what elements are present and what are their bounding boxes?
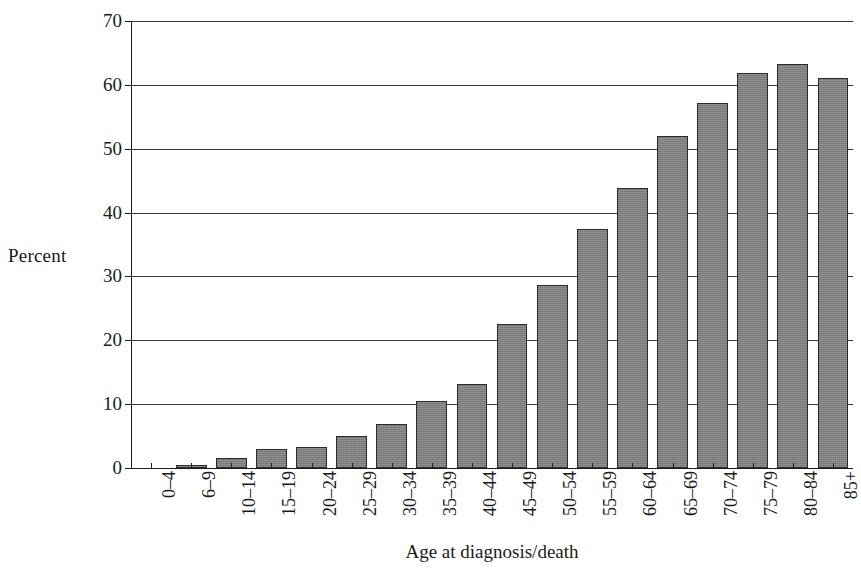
bar [737, 73, 768, 468]
x-axis-tick-label: 25–29 [361, 471, 379, 539]
bar [577, 229, 608, 468]
y-axis-tick-label: 20 [76, 330, 122, 349]
x-axis-tick-label: 40–44 [481, 471, 499, 539]
x-axis-tick-label: 80–84 [802, 471, 820, 539]
x-axis-tick [352, 463, 353, 468]
y-axis-tick-labels: 010203040506070 [70, 21, 122, 468]
x-axis-title: Age at diagnosis/death [131, 541, 853, 563]
y-axis-tick-label: 60 [76, 75, 122, 94]
bar [416, 401, 447, 468]
bar [818, 78, 849, 468]
x-axis-tick-label: 30–34 [401, 471, 419, 539]
plot-area [131, 21, 853, 468]
x-axis-tick [592, 463, 593, 468]
x-axis-tick-label: 6–9 [200, 471, 218, 539]
y-axis-tick-label: 70 [76, 11, 122, 30]
bar [657, 136, 688, 468]
x-axis-tick [673, 463, 674, 468]
x-axis-tick [512, 463, 513, 468]
x-axis-tick-label: 50–54 [561, 471, 579, 539]
y-axis-tick-label: 50 [76, 139, 122, 158]
bar [617, 188, 648, 468]
y-axis-tick-label: 0 [76, 458, 122, 477]
x-axis-tick [472, 463, 473, 468]
bar [697, 103, 728, 468]
x-axis-tick [793, 463, 794, 468]
x-axis-tick [191, 463, 192, 468]
y-axis-tick-label: 40 [76, 203, 122, 222]
bar-chart: Percent 010203040506070 0–46–910–1415–19… [0, 0, 861, 570]
x-axis-tick [713, 463, 714, 468]
x-axis-tick-label: 10–14 [240, 471, 258, 539]
x-axis-tick [632, 463, 633, 468]
x-axis-tick [753, 463, 754, 468]
y-axis-tick-label: 10 [76, 394, 122, 413]
x-axis-tick-label: 35–39 [441, 471, 459, 539]
x-axis-tick [231, 463, 232, 468]
x-axis-tick-label: 55–59 [601, 471, 619, 539]
x-axis-tick-label: 75–79 [762, 471, 780, 539]
x-axis-tick-label: 20–24 [321, 471, 339, 539]
x-axis-tick-label: 65–69 [682, 471, 700, 539]
x-axis-tick [151, 463, 152, 468]
x-axis-tick [312, 463, 313, 468]
x-axis-tick [271, 463, 272, 468]
x-axis-tick-labels: 0–46–910–1415–1920–2425–2930–3435–3940–4… [131, 469, 853, 537]
x-axis-tick [392, 463, 393, 468]
x-axis-tick-label: 15–19 [280, 471, 298, 539]
x-axis-tick-label: 70–74 [722, 471, 740, 539]
x-axis-tick-label: 0–4 [160, 471, 178, 539]
x-axis-tick-label: 45–49 [521, 471, 539, 539]
y-axis-tick-label: 30 [76, 266, 122, 285]
bar [537, 285, 568, 468]
bar [376, 424, 407, 468]
bar [457, 384, 488, 468]
bars-container [131, 21, 853, 468]
x-axis-tick [552, 463, 553, 468]
bar [777, 64, 808, 468]
x-axis-tick-label: 85+ [842, 471, 860, 539]
x-axis-tick [432, 463, 433, 468]
x-axis-tick-label: 60–64 [641, 471, 659, 539]
bar [497, 324, 528, 468]
x-axis-tick [833, 463, 834, 468]
